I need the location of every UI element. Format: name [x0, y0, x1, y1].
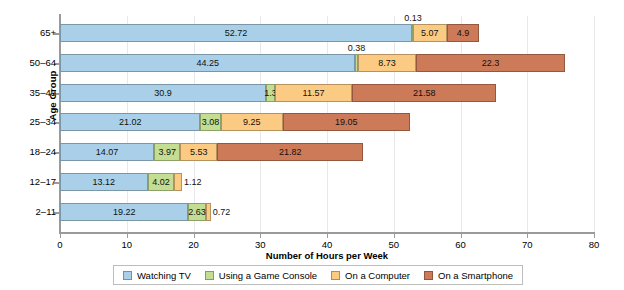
bar-value-label: 21.58 — [413, 88, 436, 98]
x-tick-label: 60 — [441, 239, 481, 250]
legend-label: On a Smartphone — [438, 270, 513, 281]
y-tick-label: 35–49 — [4, 87, 56, 98]
bar-value-label: 3.97 — [158, 147, 176, 157]
bar-value-label: 22.3 — [482, 58, 500, 68]
bar-segment[interactable]: 21.82 — [217, 143, 363, 161]
bar-segment[interactable]: 52.72 — [60, 24, 412, 42]
bar-value-label: 19.05 — [335, 117, 358, 127]
chart-legend: Watching TVUsing a Game ConsoleOn a Comp… — [113, 265, 523, 285]
y-tick-label: 18–24 — [4, 146, 56, 157]
legend-label: Watching TV — [137, 270, 191, 281]
bar-value-label: 5.07 — [421, 28, 439, 38]
bar-segment[interactable]: 22.3 — [416, 54, 565, 72]
bar-value-label: 21.02 — [119, 117, 142, 127]
x-tick-mark — [260, 233, 261, 238]
bar-value-label: 8.73 — [378, 58, 396, 68]
bar-segment[interactable]: 8.73 — [358, 54, 416, 72]
bar-segment[interactable]: 0.72 — [206, 203, 211, 221]
bar-segment[interactable]: 4.9 — [447, 24, 480, 42]
bar-value-label: 11.57 — [303, 88, 325, 98]
bar-value-label: 4.9 — [457, 28, 470, 38]
y-tick-label: 50–64 — [4, 57, 56, 68]
bar-segment[interactable]: 2.63 — [188, 203, 206, 221]
x-tick-mark — [394, 233, 395, 238]
bar-segment[interactable]: 30.9 — [60, 84, 266, 102]
bar-segment[interactable]: 4.02 — [148, 173, 175, 191]
y-tick-label-wrap: 35–49 — [0, 87, 56, 99]
legend-swatch — [424, 271, 433, 280]
bar-value-label: 4.02 — [152, 177, 170, 187]
y-tick-label: 65+ — [4, 27, 56, 38]
gridline — [527, 16, 528, 232]
y-tick-label-wrap: 25–34 — [0, 116, 56, 128]
x-tick-mark — [327, 233, 328, 238]
legend-item[interactable]: Watching TV — [123, 270, 191, 281]
bar-value-label: 21.82 — [279, 147, 302, 157]
y-tick-label-wrap: 12–17 — [0, 176, 56, 188]
bar-segment[interactable]: 3.97 — [154, 143, 180, 161]
bar-segment[interactable]: 5.53 — [180, 143, 217, 161]
bar-segment[interactable]: 14.07 — [60, 143, 154, 161]
bar-value-label: 30.9 — [154, 88, 172, 98]
stacked-bar-chart: Age Group 65+50–6435–4925–3418–2412–172–… — [0, 0, 624, 290]
bar-value-label: 2.63 — [188, 207, 206, 217]
bar-segment[interactable]: 3.08 — [200, 113, 221, 131]
bar-segment[interactable]: 21.02 — [60, 113, 200, 131]
bar-segment[interactable]: 19.05 — [283, 113, 410, 131]
bar-value-label: 14.07 — [96, 147, 119, 157]
y-tick-label-wrap: 65+ — [0, 27, 56, 39]
y-tick-label-wrap: 50–64 — [0, 57, 56, 69]
x-tick-mark — [594, 233, 595, 238]
x-tick-label: 30 — [240, 239, 280, 250]
x-axis-title: Number of Hours per Week — [60, 250, 594, 261]
legend-swatch — [205, 271, 214, 280]
x-tick-label: 0 — [40, 239, 80, 250]
x-tick-mark — [194, 233, 195, 238]
bar-segment[interactable]: 9.25 — [221, 113, 283, 131]
legend-swatch — [123, 271, 132, 280]
x-tick-mark — [461, 233, 462, 238]
bar-segment[interactable]: 13.12 — [60, 173, 148, 191]
bar-value-label: 44.25 — [196, 58, 219, 68]
bar-segment[interactable]: 44.25 — [60, 54, 355, 72]
bar-segment[interactable]: 21.58 — [352, 84, 496, 102]
bar-value-label: 5.53 — [190, 147, 208, 157]
x-tick-label: 50 — [374, 239, 414, 250]
x-tick-mark — [527, 233, 528, 238]
bar-value-label: 19.22 — [113, 207, 136, 217]
legend-item[interactable]: On a Computer — [331, 270, 410, 281]
legend-item[interactable]: On a Smartphone — [424, 270, 513, 281]
x-tick-label: 40 — [307, 239, 347, 250]
x-tick-label: 70 — [507, 239, 547, 250]
bar-value-label: 13.12 — [93, 177, 116, 187]
gridline — [461, 16, 462, 232]
bar-segment[interactable]: 19.22 — [60, 203, 188, 221]
x-tick-label: 20 — [174, 239, 214, 250]
bar-value-label: 9.25 — [243, 117, 261, 127]
legend-item[interactable]: Using a Game Console — [205, 270, 317, 281]
y-tick-label-wrap: 18–24 — [0, 146, 56, 158]
gridline — [594, 16, 595, 232]
legend-label: On a Computer — [345, 270, 410, 281]
legend-swatch — [331, 271, 340, 280]
legend-label: Using a Game Console — [219, 270, 317, 281]
x-tick-mark — [60, 233, 61, 238]
y-tick-label: 12–17 — [4, 176, 56, 187]
x-tick-label: 80 — [574, 239, 614, 250]
bar-segment[interactable]: 1.3 — [266, 84, 275, 102]
bar-value-label: 52.72 — [225, 28, 248, 38]
x-tick-mark — [127, 233, 128, 238]
bar-segment[interactable]: 11.57 — [275, 84, 352, 102]
bar-segment[interactable]: 1.12 — [174, 173, 181, 191]
y-tick-label: 25–34 — [4, 116, 56, 127]
bar-value-label: 3.08 — [202, 117, 220, 127]
y-tick-label-wrap: 2–11 — [0, 206, 56, 218]
y-tick-label: 2–11 — [4, 206, 56, 217]
x-tick-label: 10 — [107, 239, 147, 250]
bar-segment[interactable]: 5.07 — [413, 24, 447, 42]
